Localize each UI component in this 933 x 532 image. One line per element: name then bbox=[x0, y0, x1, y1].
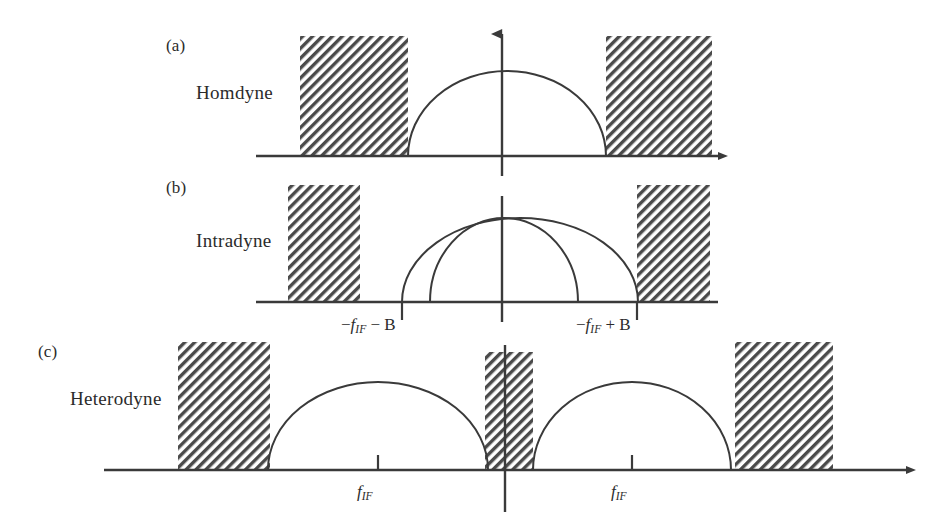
panel-a-letter: (a) bbox=[166, 36, 185, 56]
panel-c-tick-label-right: fIF bbox=[611, 482, 627, 502]
panel-b-intradyne bbox=[256, 185, 718, 322]
panel-b-tick-label-left-subscript: IF bbox=[355, 323, 366, 335]
panel-b-tick-label-left: −fIF − B bbox=[341, 315, 396, 335]
panel-c-hatched-block-right bbox=[735, 342, 833, 470]
panel-c-tick-label-left: fIF bbox=[357, 482, 373, 502]
panel-a-hatched-block-right bbox=[606, 36, 712, 156]
panel-b-tick-label-left-minus: − bbox=[341, 315, 351, 334]
panel-c-heterodyne bbox=[104, 342, 906, 512]
panel-c-hatched-block-left bbox=[178, 342, 270, 470]
panel-b-tick-label-right: −fIF + B bbox=[576, 315, 631, 335]
panel-c-hatched-block-center bbox=[485, 352, 533, 470]
coherent-detection-spectra-figure bbox=[0, 0, 933, 532]
panel-b-hatched-block-left bbox=[288, 185, 360, 302]
panel-b-signal-arc-narrow bbox=[430, 218, 578, 302]
panel-a-hatched-block-left bbox=[300, 36, 408, 156]
panel-b-signal-arc-wide bbox=[402, 218, 638, 302]
panel-b-tick-label-right-minus: − bbox=[576, 315, 586, 334]
panel-c-title: Heterodyne bbox=[70, 388, 162, 410]
panel-a-homodyne bbox=[256, 34, 718, 176]
panel-c-tick-label-right-subscript: IF bbox=[616, 490, 627, 502]
panel-c-tick-label-left-subscript: IF bbox=[362, 490, 373, 502]
panel-b-letter: (b) bbox=[166, 178, 186, 198]
panel-b-tick-label-right-rest: + B bbox=[601, 315, 630, 334]
panel-b-hatched-block-right bbox=[637, 185, 710, 302]
panel-b-tick-label-left-rest: − B bbox=[366, 315, 395, 334]
panel-c-letter: (c) bbox=[38, 342, 57, 362]
panel-a-signal-arc bbox=[408, 71, 606, 156]
panel-b-tick-label-right-subscript: IF bbox=[590, 323, 601, 335]
panel-a-title: Homdyne bbox=[196, 82, 273, 104]
panel-b-title: Intradyne bbox=[196, 230, 272, 252]
